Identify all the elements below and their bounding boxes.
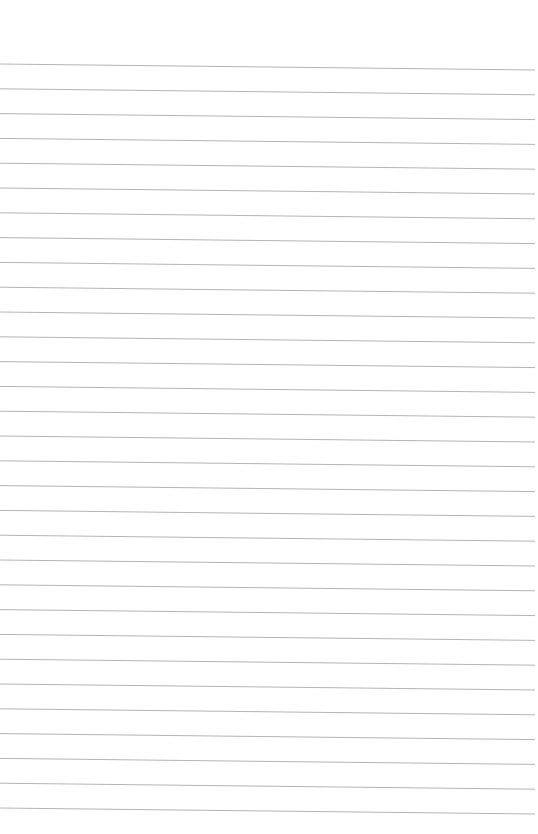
ruled-line — [0, 386, 535, 392]
ruled-line — [0, 808, 535, 814]
lined-paper-page — [0, 0, 538, 834]
ruled-line — [0, 238, 535, 244]
ruled-line — [0, 659, 535, 665]
ruled-line — [0, 560, 535, 566]
ruled-line — [0, 213, 535, 219]
ruled-line — [0, 287, 535, 293]
ruled-line — [0, 486, 535, 492]
ruled-line — [0, 610, 535, 616]
ruled-line — [0, 312, 535, 318]
ruled-line — [0, 510, 535, 516]
ruled-line — [0, 535, 535, 541]
ruled-lines — [0, 0, 538, 834]
ruled-line — [0, 362, 535, 368]
ruled-line — [0, 89, 535, 95]
ruled-line — [0, 758, 535, 764]
ruled-line — [0, 734, 535, 740]
ruled-line — [0, 585, 535, 591]
ruled-line — [0, 337, 535, 343]
ruled-line — [0, 684, 535, 690]
ruled-line — [0, 634, 535, 640]
ruled-line — [0, 709, 535, 715]
ruled-line — [0, 138, 535, 144]
ruled-line — [0, 783, 535, 789]
ruled-line — [0, 163, 535, 169]
ruled-line — [0, 262, 535, 268]
ruled-line — [0, 461, 535, 467]
ruled-line — [0, 436, 535, 442]
ruled-line — [0, 114, 535, 120]
ruled-line — [0, 188, 535, 194]
ruled-line — [0, 411, 535, 417]
ruled-line — [0, 64, 535, 70]
